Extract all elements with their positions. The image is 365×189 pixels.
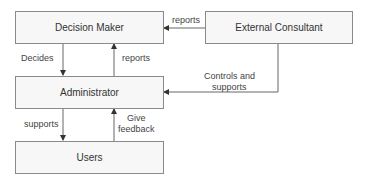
edge-label-feedback: feedback bbox=[118, 124, 155, 135]
node-administrator: Administrator bbox=[15, 76, 164, 109]
node-decision-maker: Decision Maker bbox=[15, 11, 164, 44]
edge-label-controls-line2: supports bbox=[212, 82, 247, 93]
edge-label-controls-line1: Controls and bbox=[204, 71, 255, 82]
node-label: External Consultant bbox=[235, 22, 322, 33]
edge-label-decides: Decides bbox=[21, 53, 54, 64]
edge-label-admin-supports: supports bbox=[24, 119, 59, 130]
node-label: Decision Maker bbox=[55, 22, 124, 33]
node-label: Administrator bbox=[60, 87, 119, 98]
node-users: Users bbox=[15, 141, 164, 174]
node-external-consultant: External Consultant bbox=[205, 11, 353, 44]
edge-label-consultant-reports: reports bbox=[172, 15, 200, 26]
edge-label-give: Give bbox=[127, 113, 146, 124]
edge-label-admin-reports: reports bbox=[122, 53, 150, 64]
node-label: Users bbox=[76, 152, 102, 163]
